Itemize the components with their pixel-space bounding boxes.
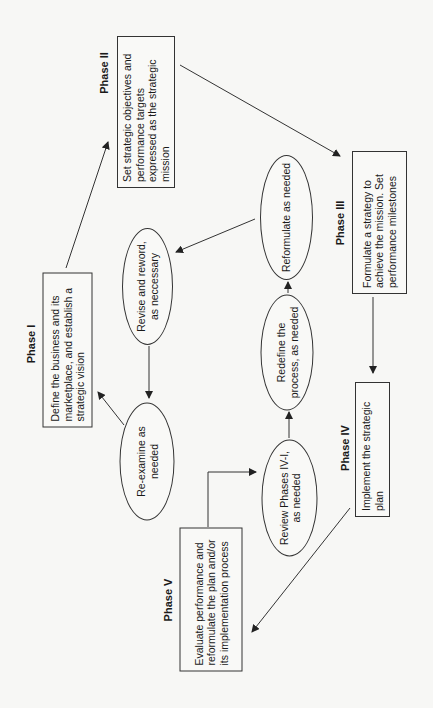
revise-text: Revise and reword, as neccessary <box>135 235 160 338</box>
phase-4-box: Implement the strategic plan <box>355 382 390 517</box>
phase-3-text: Formulate a strategy to achieve the miss… <box>361 157 399 288</box>
phase-5-label: Phase V <box>160 565 176 635</box>
phase-4-label: Phase IV <box>337 413 353 483</box>
redefine-text: Redefine the process, as needed <box>275 302 300 404</box>
phase-5-text: Evaluate performance and reformulate the… <box>192 534 230 666</box>
phase-3-box: Formulate a strategy to achieve the miss… <box>352 151 407 294</box>
reexamine-ellipse: Re-examine as needed <box>120 403 175 521</box>
phase-1-label: Phase I <box>23 309 39 379</box>
review-text: Review Phases IV-I, as needed <box>277 447 302 550</box>
arrow-reformulate-to-revise <box>176 219 255 252</box>
phase-4-text: Implement the strategic plan <box>360 388 385 511</box>
reexamine-text: Re-examine as needed <box>135 410 160 514</box>
phase-3-label: Phase III <box>332 188 348 258</box>
arrow-phase2-to-phase3 <box>180 65 340 156</box>
phase-2-box: Set strategic objectives and performance… <box>117 36 175 188</box>
phase-5-box: Evaluate performance and reformulate the… <box>180 528 243 672</box>
phase-1-text: Define the business and its marketplace,… <box>49 279 87 422</box>
revise-ellipse: Revise and reword, as neccessary <box>122 228 173 345</box>
phase-2-text: Set strategic objectives and performance… <box>121 42 171 182</box>
arrow-phase5-to-review <box>208 472 256 527</box>
arrow-phase1-to-phase2 <box>66 142 108 268</box>
arrow-reexamine-to-phase1 <box>98 392 124 425</box>
review-ellipse: Review Phases IV-I, as needed <box>262 440 318 557</box>
phase-1-box: Define the business and its marketplace,… <box>43 273 93 428</box>
reformulate-text: Reformulate as needed <box>280 163 293 272</box>
phase-2-label: Phase II <box>96 38 112 108</box>
redefine-ellipse: Redefine the process, as needed <box>261 295 314 411</box>
reformulate-ellipse: Reformulate as needed <box>260 155 313 280</box>
